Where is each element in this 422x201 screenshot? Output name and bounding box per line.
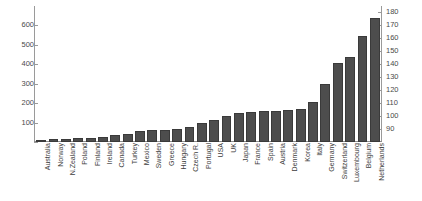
x-axis-category-label: Italy xyxy=(316,143,324,156)
bar[interactable] xyxy=(246,112,256,142)
bar[interactable] xyxy=(49,139,59,142)
bar-slot[interactable] xyxy=(283,6,293,142)
x-axis-category-label: Japan xyxy=(242,143,250,162)
bar[interactable] xyxy=(147,130,157,142)
bar[interactable] xyxy=(234,113,244,142)
y-axis-right-tick-label: 180 xyxy=(386,8,399,16)
bar-slot[interactable] xyxy=(358,6,368,142)
x-axis-category-label: Czech R. xyxy=(192,143,200,172)
bar[interactable] xyxy=(73,138,83,142)
bar[interactable] xyxy=(259,111,269,142)
bar[interactable] xyxy=(185,127,195,142)
x-axis-category-label: Hungary xyxy=(180,143,188,169)
bar[interactable] xyxy=(123,134,133,142)
bar-slot[interactable] xyxy=(61,6,71,142)
plot-area xyxy=(35,6,381,142)
y-axis-left-tick-label: 100 xyxy=(21,119,34,127)
bar-slot[interactable] xyxy=(320,6,330,142)
y-axis-right-tick-label: 160 xyxy=(386,34,399,42)
bar[interactable] xyxy=(86,138,96,142)
x-axis-category-label: Belgium xyxy=(365,143,373,168)
bar-slot[interactable] xyxy=(209,6,219,142)
bar-slot[interactable] xyxy=(160,6,170,142)
bar-slot[interactable] xyxy=(308,6,318,142)
bar-chart: 100200300400500600 901001101201301401501… xyxy=(0,0,422,201)
bar-slot[interactable] xyxy=(333,6,343,142)
bar-slot[interactable] xyxy=(370,6,380,142)
bar[interactable] xyxy=(345,57,355,142)
x-axis-category-label: Turkey xyxy=(131,143,139,164)
bar-slot[interactable] xyxy=(147,6,157,142)
y-axis-right-tick-label: 140 xyxy=(386,60,399,68)
x-axis-category-label: Austria xyxy=(279,143,287,165)
x-axis-category-label: Finland xyxy=(94,143,102,166)
x-axis-category-label: Greece xyxy=(168,143,176,166)
x-axis-category-label: Australia xyxy=(44,143,52,170)
bar-slot[interactable] xyxy=(259,6,269,142)
bar[interactable] xyxy=(308,102,318,142)
bar-slot[interactable] xyxy=(172,6,182,142)
bar[interactable] xyxy=(320,84,330,142)
bar[interactable] xyxy=(36,140,46,142)
bar[interactable] xyxy=(271,111,281,142)
y-axis-right-tick-label: 170 xyxy=(386,21,399,29)
bar-slot[interactable] xyxy=(197,6,207,142)
y-axis-left-tick-label: 300 xyxy=(21,80,34,88)
x-axis-category-label: Korea xyxy=(304,143,312,162)
bar-slot[interactable] xyxy=(246,6,256,142)
bar[interactable] xyxy=(209,120,219,142)
bar-slot[interactable] xyxy=(123,6,133,142)
bar[interactable] xyxy=(296,109,306,142)
bar[interactable] xyxy=(370,18,380,142)
y-axis-right-tick-label: 100 xyxy=(386,112,399,120)
x-axis-category-label: Netherlands xyxy=(378,143,386,181)
bar-slot[interactable] xyxy=(345,6,355,142)
y-axis-left-tick-label: 400 xyxy=(21,60,34,68)
bar-slot[interactable] xyxy=(135,6,145,142)
x-axis-category-label: Poland xyxy=(81,143,89,165)
bar-slot[interactable] xyxy=(110,6,120,142)
y-axis-right-tick-label: 130 xyxy=(386,73,399,81)
x-axis-category-label: Switzerland xyxy=(341,143,349,179)
y-axis-right-tick-label: 90 xyxy=(386,125,394,133)
bar[interactable] xyxy=(358,36,368,142)
bar[interactable] xyxy=(61,139,71,142)
bar-slot[interactable] xyxy=(98,6,108,142)
bar[interactable] xyxy=(110,135,120,142)
y-axis-left-tick-label: 200 xyxy=(21,99,34,107)
y-axis-right-tick-label: 150 xyxy=(386,47,399,55)
bar[interactable] xyxy=(333,63,343,142)
y-axis-left-tick-label: 500 xyxy=(21,41,34,49)
y-axis-right-tick-label: 110 xyxy=(386,99,398,107)
x-axis-category-label: USA xyxy=(217,143,225,157)
bar[interactable] xyxy=(197,123,207,142)
bar-slot[interactable] xyxy=(185,6,195,142)
bar[interactable] xyxy=(135,131,145,142)
y-axis-left-tick-label: 600 xyxy=(21,21,34,29)
x-axis-category-label: Norway xyxy=(57,143,65,167)
bar-slot[interactable] xyxy=(222,6,232,142)
bar[interactable] xyxy=(172,129,182,142)
x-axis-category-label: Luxembourg xyxy=(353,143,361,182)
bar[interactable] xyxy=(222,116,232,142)
bar[interactable] xyxy=(98,137,108,142)
bar-slot[interactable] xyxy=(271,6,281,142)
x-axis-category-label: Ireland xyxy=(106,143,114,164)
x-axis-category-label: Sweden xyxy=(155,143,163,168)
x-axis-category-labels: AustraliaNorwayN.ZealandPolandFinlandIre… xyxy=(35,143,381,201)
x-axis-category-label: Portugal xyxy=(205,143,213,169)
bar-slot[interactable] xyxy=(49,6,59,142)
x-axis-category-label: N.Zealand xyxy=(69,143,77,175)
x-axis-category-label: France xyxy=(254,143,262,165)
bar-slot[interactable] xyxy=(73,6,83,142)
x-axis-category-label: Spain xyxy=(267,143,275,161)
x-axis-category-label: Germany xyxy=(328,143,336,172)
bar[interactable] xyxy=(283,110,293,142)
bar-slot[interactable] xyxy=(296,6,306,142)
bar-slot[interactable] xyxy=(36,6,46,142)
bar-slot[interactable] xyxy=(86,6,96,142)
x-axis-category-label: Mexico xyxy=(143,143,151,165)
x-axis-category-label: UK xyxy=(230,143,238,153)
bar-slot[interactable] xyxy=(234,6,244,142)
bar[interactable] xyxy=(160,130,170,142)
